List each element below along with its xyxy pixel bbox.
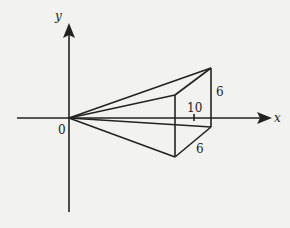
pyramid-diagram: y x 0 10 6 6 xyxy=(0,0,290,228)
edge-apex-top-front xyxy=(69,95,175,118)
origin-label: 0 xyxy=(58,123,66,137)
base-bottom-edge xyxy=(175,127,211,157)
x-axis-label: x xyxy=(274,111,281,125)
height-edge-label: 6 xyxy=(216,85,224,99)
y-axis-label: y xyxy=(54,9,62,23)
base-top-edge xyxy=(175,68,211,95)
depth-edge-label: 6 xyxy=(196,142,204,156)
tick-label-10: 10 xyxy=(187,101,202,115)
